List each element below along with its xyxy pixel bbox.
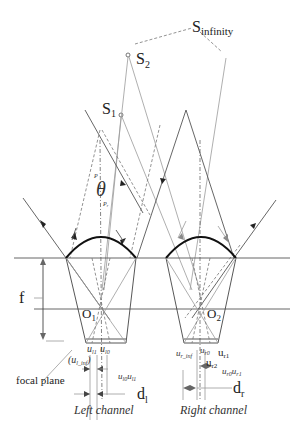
- u-l-inf-label: (ul_inf): [68, 354, 91, 366]
- u-l0-label: ul0: [100, 343, 110, 355]
- theta-label: θ: [96, 178, 106, 200]
- u-r1-label: ur1: [218, 346, 230, 360]
- right-lens: [166, 237, 236, 258]
- s2-label: S2: [136, 50, 150, 70]
- u-r-inf-label: ur_inf: [176, 348, 194, 359]
- reference-lines: [14, 258, 290, 309]
- p-r-label: Pr: [102, 201, 109, 208]
- d-r-label: dr: [233, 379, 245, 399]
- focal-plane-label: focal plane: [16, 374, 65, 386]
- stereo-optics-diagram: Sinfinity S2 S1 θ P Pr f O1 O2 focal pla…: [0, 0, 299, 431]
- lenses: [66, 237, 236, 258]
- incident-rays: [23, 110, 276, 320]
- s-infinity-label: Sinfinity: [192, 18, 234, 37]
- rays-s1: [104, 117, 192, 290]
- arrow-leaders: [72, 221, 226, 242]
- left-channel-label: Left channel: [73, 403, 134, 417]
- p-l-label: P: [93, 173, 98, 179]
- f-label: f: [19, 289, 25, 306]
- f-dimension: [34, 258, 64, 341]
- labels: Sinfinity S2 S1 θ P Pr f O1 O2 focal pla…: [16, 18, 248, 417]
- u-r0-label: ur0: [200, 345, 210, 356]
- s2-point: [126, 53, 130, 57]
- left-camera: [66, 258, 136, 343]
- d-l-label: dl: [137, 385, 148, 405]
- arrow-icon: [160, 178, 166, 184]
- right-channel-label: Right channel: [179, 403, 248, 417]
- u-r0-u-r1-label: ur0ur1: [222, 366, 242, 377]
- u-r2-label: ur2: [206, 356, 218, 370]
- arrow-icon: [40, 220, 46, 228]
- u-l0-u-l1-label: ul0ul1: [118, 371, 136, 382]
- s1-label: S1: [102, 100, 116, 119]
